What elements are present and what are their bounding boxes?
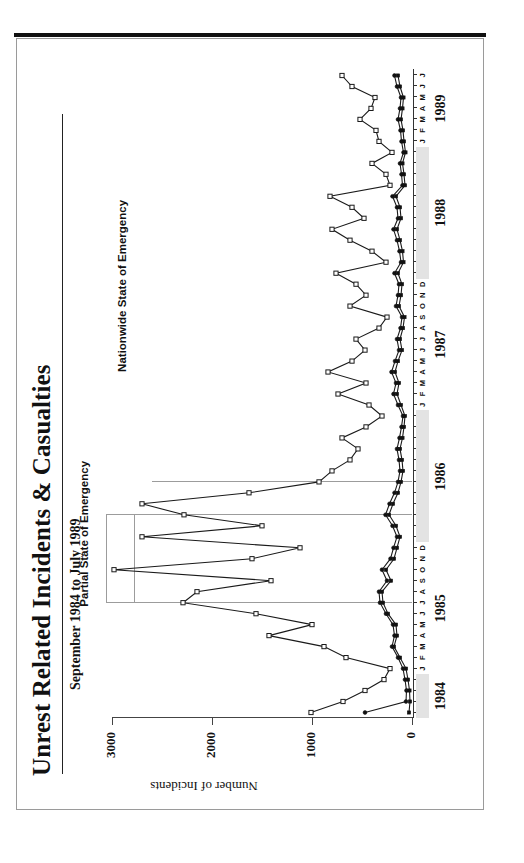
month-label: J [418,598,427,608]
month-tick [413,646,417,647]
month-tick [413,305,417,306]
month-tick [413,129,417,130]
month-label: S [418,312,427,322]
data-point [182,513,186,517]
data-point [384,612,388,616]
data-point [309,710,313,714]
data-point [399,96,403,100]
title-divider [62,114,63,774]
data-point [326,370,330,374]
data-point [399,326,403,330]
year-label: 1988 [433,183,449,243]
data-point [254,612,258,616]
y-tick-label: 1000 [303,732,319,778]
month-tick [413,569,417,570]
data-point [396,480,400,484]
y-tick [312,718,313,725]
month-label: J [418,345,427,355]
month-tick [413,602,417,603]
data-point [382,678,386,682]
data-point [385,579,389,583]
data-point [396,403,400,407]
data-point [400,315,404,319]
data-point [394,304,398,308]
y-tick [412,718,413,725]
data-point [195,590,199,594]
data-point [397,282,401,286]
data-point [400,425,404,429]
data-point [322,645,326,649]
data-point [403,678,407,682]
year-label: 1989 [433,78,449,138]
month-tick [413,349,417,350]
month-tick [413,635,417,636]
series-line-2 [365,76,407,713]
data-point [364,381,368,385]
month-tick [413,558,417,559]
data-point [405,689,409,693]
month-label: J [418,136,427,146]
data-point [391,524,395,528]
data-point [395,535,399,539]
data-point [388,502,392,506]
data-point [358,117,362,121]
data-point [393,370,396,373]
data-point [330,469,334,473]
data-point [354,282,358,286]
data-point [394,381,398,385]
data-point [394,524,397,527]
month-tick [413,591,417,592]
data-point [298,546,302,550]
month-tick [413,580,417,581]
data-point [402,151,406,155]
data-point [400,140,404,144]
data-point [399,129,403,133]
data-point [395,238,399,242]
month-label: F [418,389,427,399]
y-axis-title: Number of Incidents [74,778,334,794]
month-label: O [418,565,427,575]
series-lines [112,70,412,718]
data-point [384,260,388,264]
month-tick [413,140,417,141]
month-label: A [418,323,427,333]
data-point [364,425,368,429]
data-point [395,205,399,209]
data-point [396,272,399,275]
year-band [416,411,429,543]
month-tick [413,624,417,625]
data-point [350,205,354,209]
data-point [344,656,348,660]
data-point [260,524,264,528]
plot-area [112,70,412,718]
y-tick [112,718,113,725]
series-line-0 [114,76,392,713]
data-point [396,293,400,297]
data-point [393,491,397,495]
month-tick [413,404,417,405]
data-point [369,106,373,110]
data-point [394,195,397,198]
y-tick-label: 2000 [203,732,219,778]
data-point [388,183,392,187]
data-point [377,326,381,330]
month-tick [413,327,417,328]
month-label: N [418,554,427,564]
data-point [362,216,366,220]
data-point [392,546,396,550]
month-tick [413,382,417,383]
data-point [397,348,401,352]
month-tick [413,294,417,295]
y-tick-label: 0 [403,732,419,778]
data-point [393,634,397,638]
month-tick [413,668,417,669]
month-tick [413,118,417,119]
data-point [404,700,408,704]
data-point [395,447,399,451]
data-point [398,436,402,440]
month-tick [413,107,417,108]
data-point [363,711,367,715]
month-tick [413,96,417,97]
data-point [388,667,392,671]
data-point [370,161,374,165]
